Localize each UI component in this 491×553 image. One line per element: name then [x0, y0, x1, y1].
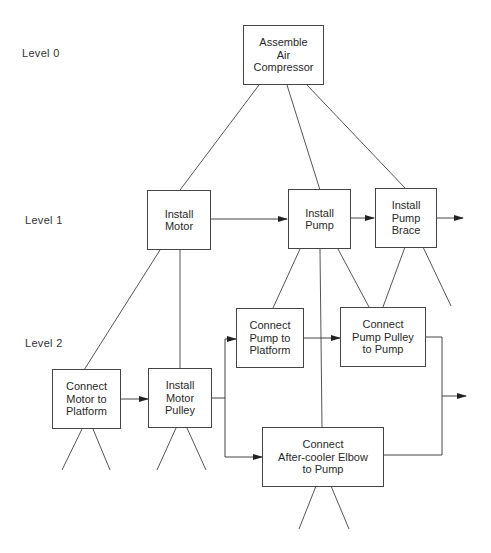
level-0-label: Level 0	[22, 47, 60, 59]
node-assemble-air-compressor: Assemble Air Compressor	[243, 25, 324, 85]
node-install-motor: Install Motor	[147, 190, 211, 250]
node-install-pump-brace: Install Pump Brace	[375, 188, 437, 248]
node-connect-motor-to-platform: Connect Motor to Platform	[52, 369, 121, 429]
level-2-label: Level 2	[25, 337, 63, 349]
node-connect-after-cooler-elbow-to-pump: Connect After-cooler Elbow to Pump	[262, 427, 384, 487]
node-install-motor-pulley: Install Motor Pulley	[148, 368, 212, 428]
level-1-label: Level 1	[25, 214, 63, 226]
node-connect-pump-to-platform: Connect Pump to Platform	[236, 308, 304, 368]
node-connect-pump-pulley-to-pump: Connect Pump Pulley to Pump	[340, 307, 426, 367]
node-install-pump: Install Pump	[288, 189, 351, 249]
